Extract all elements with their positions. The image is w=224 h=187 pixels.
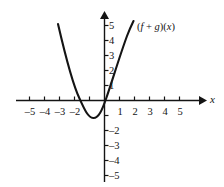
y-tick-label-4: 4	[109, 36, 114, 47]
x-axis-arrowhead	[199, 96, 207, 105]
y-tick-label-1: 1	[109, 81, 114, 92]
y-tick-label--3: –3	[109, 141, 120, 152]
x-tick-label--4: –4	[40, 107, 51, 118]
x-tick-label-4: 4	[162, 107, 167, 118]
figure-canvas: –5 –4 –3 –2 1 2 3 4 5 5 4 3 2 1 –2 –3 –4…	[0, 0, 224, 187]
x-tick-label-1: 1	[117, 107, 122, 118]
x-axis-label: x	[210, 94, 215, 105]
y-tick-label--5: –5	[109, 171, 120, 182]
x-tick-label-3: 3	[147, 107, 152, 118]
x-tick-label--5: –5	[25, 107, 36, 118]
function-curve-f-plus-g	[58, 21, 134, 118]
x-tick-label-5: 5	[177, 107, 182, 118]
x-tick-label--3: –3	[55, 107, 66, 118]
y-tick-label-5: 5	[109, 21, 114, 32]
y-tick-label-2: 2	[109, 66, 114, 77]
curve-label-f-plus-g: (f + g)(x)	[137, 22, 175, 33]
y-tick-label-3: 3	[109, 51, 114, 62]
y-tick-label--4: –4	[109, 156, 120, 167]
curve-label-plus: +	[143, 21, 154, 32]
y-tick-label--2: –2	[109, 126, 120, 137]
curve-label-close-paren-2: )	[172, 21, 176, 32]
y-axis-arrowhead	[100, 11, 109, 19]
x-tick-label-2: 2	[132, 107, 137, 118]
x-tick-label--2: –2	[70, 107, 81, 118]
